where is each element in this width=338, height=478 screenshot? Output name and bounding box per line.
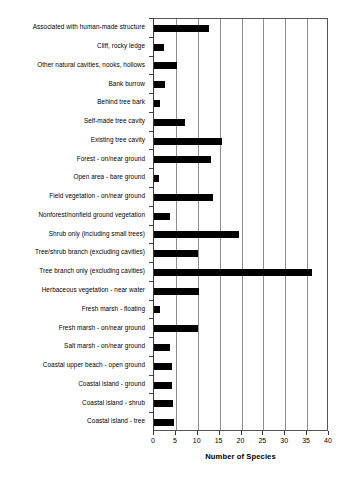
- bar: [154, 119, 185, 126]
- category-label: Open area - bare ground: [74, 173, 146, 181]
- bar: [154, 138, 222, 145]
- x-axis-tick-label: 15: [207, 436, 231, 445]
- bar-row: [154, 263, 329, 282]
- x-axis-tick-label: 20: [229, 436, 253, 445]
- species-habitat-bar-chart: Associated with human-made structureClif…: [0, 0, 338, 478]
- x-axis-tick-label: 30: [272, 436, 296, 445]
- category-tick: [149, 206, 153, 207]
- category-tick: [149, 300, 153, 301]
- category-tick: [149, 412, 153, 413]
- bar-series: [154, 19, 327, 430]
- category-label: Tree branch only (excluding cavities): [39, 267, 145, 275]
- category-label: Herbaceous vegetation - near water: [42, 286, 145, 294]
- category-label: Tree/shrub branch (excluding cavities): [35, 248, 145, 256]
- bar-row: [154, 38, 329, 57]
- category-label: Existing tree cavity: [91, 136, 145, 144]
- bar-row: [154, 188, 329, 207]
- bar: [154, 25, 209, 32]
- x-axis-tick-label: 40: [316, 436, 338, 445]
- bar: [154, 231, 239, 238]
- category-label: Coastal island - tree: [87, 417, 145, 425]
- bar-row: [154, 376, 329, 395]
- category-label: Shrub only (including small trees): [49, 230, 145, 238]
- category-label: Fresh marsh - on/near ground: [59, 324, 145, 332]
- category-label: Coastal island - ground: [78, 380, 145, 388]
- category-tick: [149, 37, 153, 38]
- x-axis-tick: [175, 431, 176, 435]
- category-label: Behind tree bark: [97, 98, 145, 106]
- bar: [154, 363, 172, 370]
- x-axis-tick: [328, 431, 329, 435]
- bar-row: [154, 19, 329, 38]
- bar: [154, 325, 198, 332]
- x-axis-tick-label: 5: [163, 436, 187, 445]
- bar-row: [154, 338, 329, 357]
- category-label: Field vegetation - on/near ground: [49, 192, 145, 200]
- bar-row: [154, 132, 329, 151]
- bar: [154, 100, 160, 107]
- category-axis-labels: Associated with human-made structureClif…: [0, 18, 149, 431]
- category-tick: [149, 187, 153, 188]
- bar-row: [154, 75, 329, 94]
- category-label: Bank burrow: [109, 80, 145, 88]
- category-label: Other natural cavities, nooks, hollows: [37, 61, 145, 69]
- category-label: Salt marsh - on/near ground: [64, 342, 145, 350]
- bar-row: [154, 150, 329, 169]
- bar: [154, 156, 211, 163]
- bar-row: [154, 226, 329, 245]
- bar-row: [154, 413, 329, 432]
- category-tick: [149, 56, 153, 57]
- category-tick: [149, 337, 153, 338]
- category-tick: [149, 262, 153, 263]
- x-axis-tick-label: 0: [141, 436, 165, 445]
- bar: [154, 62, 177, 69]
- x-axis-tick-label: 35: [294, 436, 318, 445]
- x-axis-tick-label: 10: [185, 436, 209, 445]
- bar: [154, 382, 172, 389]
- x-axis-title: Number of Species: [153, 452, 328, 461]
- category-tick: [149, 243, 153, 244]
- bar-row: [154, 94, 329, 113]
- plot-area: [153, 18, 328, 431]
- bar-row: [154, 169, 329, 188]
- category-tick: [149, 281, 153, 282]
- bar-row: [154, 207, 329, 226]
- bar: [154, 81, 165, 88]
- category-label: Coastal island - shrub: [82, 399, 145, 407]
- x-axis-tick: [306, 431, 307, 435]
- category-tick: [149, 93, 153, 94]
- category-label: Associated with human-made structure: [33, 23, 145, 31]
- category-tick: [149, 112, 153, 113]
- category-label: Nonforest/nonfield ground vegetation: [38, 211, 145, 219]
- category-label: Cliff, rocky ledge: [97, 42, 145, 50]
- bar: [154, 194, 213, 201]
- x-axis-tick: [219, 431, 220, 435]
- category-tick: [149, 74, 153, 75]
- category-tick: [149, 318, 153, 319]
- bar-row: [154, 357, 329, 376]
- bar: [154, 419, 174, 426]
- category-tick: [149, 149, 153, 150]
- bar-row: [154, 57, 329, 76]
- category-tick: [149, 18, 153, 19]
- bar: [154, 400, 173, 407]
- bar-row: [154, 319, 329, 338]
- x-axis-tick: [262, 431, 263, 435]
- category-label: Coastal upper beach - open ground: [43, 361, 145, 369]
- bar: [154, 213, 170, 220]
- bar: [154, 250, 198, 257]
- category-tick: [149, 225, 153, 226]
- x-axis-tick: [197, 431, 198, 435]
- category-label: Fresh marsh - floating: [82, 305, 145, 313]
- x-axis-tick-label: 25: [250, 436, 274, 445]
- category-tick: [149, 375, 153, 376]
- bar: [154, 288, 199, 295]
- bar-row: [154, 301, 329, 320]
- bar: [154, 44, 164, 51]
- x-axis-tick: [241, 431, 242, 435]
- bar: [154, 175, 159, 182]
- category-tick: [149, 393, 153, 394]
- bar: [154, 344, 170, 351]
- bar-row: [154, 394, 329, 413]
- bar-row: [154, 244, 329, 263]
